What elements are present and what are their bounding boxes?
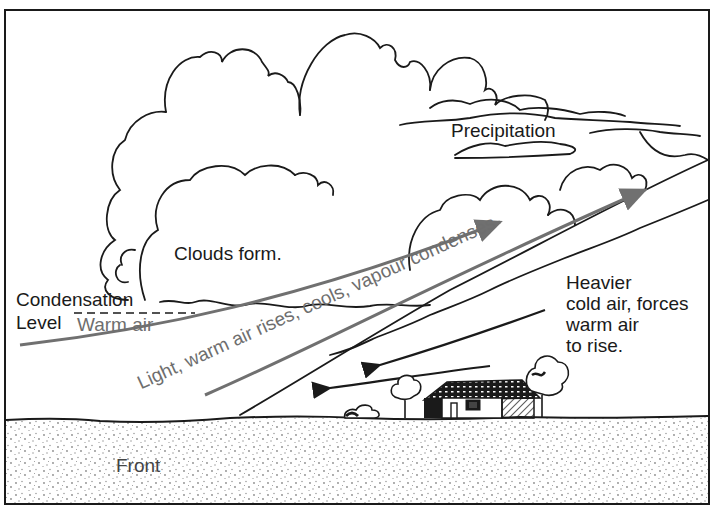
cold-air-label-line3: warm air <box>566 314 639 335</box>
cold-air-label-line2: cold air, forces <box>566 293 689 314</box>
front-diagram-illustration <box>0 0 714 510</box>
front-label: Front <box>116 455 160 476</box>
warm-air-label: Warm air <box>77 314 153 335</box>
cold-air-label-line1: Heavier <box>566 272 631 293</box>
ground <box>6 416 708 503</box>
precipitation-label: Precipitation <box>451 120 556 141</box>
condensation-level-label-line2: Level <box>16 312 61 333</box>
condensation-level-label-line1: Condensation <box>16 289 133 310</box>
cold-air-label-line4: to rise. <box>566 335 623 356</box>
house <box>424 380 540 418</box>
clouds-form-label: Clouds form. <box>174 243 282 264</box>
